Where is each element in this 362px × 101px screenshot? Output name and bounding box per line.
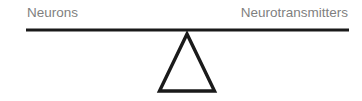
balance-graphic (0, 0, 362, 101)
fulcrum-triangle-icon (160, 34, 215, 91)
